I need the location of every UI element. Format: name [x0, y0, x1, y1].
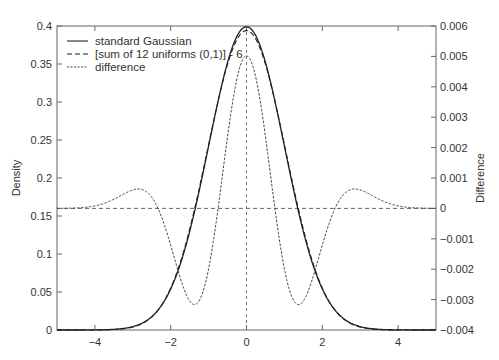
legend: standard Gaussian [sum of 12 uniforms (0…: [67, 35, 243, 73]
y2-tick-label: −0.003: [440, 294, 474, 306]
y2-tick-label: −0.001: [440, 233, 474, 245]
y-tick-label: 0: [46, 324, 52, 336]
legend-item-gaussian: standard Gaussian: [67, 35, 192, 47]
y2-tick-label: 0.002: [440, 142, 468, 154]
legend-label: standard Gaussian: [95, 35, 192, 47]
x-tick-label: 0: [243, 336, 249, 348]
y-tick-label: 0.15: [31, 210, 52, 222]
legend-item-uniform-sum: [sum of 12 uniforms (0,1)] - 6: [67, 48, 243, 60]
y2-tick-label: −0.004: [440, 324, 474, 336]
y2-tick-label: 0.003: [440, 111, 468, 123]
x-tick-label: −4: [89, 336, 102, 348]
y2-tick-label: 0.006: [440, 20, 468, 32]
y2-tick-label: 0.001: [440, 172, 468, 184]
y-axis-right: −0.004−0.003−0.002−0.00100.0010.0020.003…: [431, 20, 474, 336]
y2-tick-label: 0.004: [440, 81, 468, 93]
y-tick-label: 0.1: [37, 248, 52, 260]
y-tick-label: 0.05: [31, 286, 52, 298]
x-tick-label: 2: [319, 336, 325, 348]
x-axis: −4−2024: [89, 26, 402, 348]
y2-tick-label: 0.005: [440, 50, 468, 62]
legend-label: [sum of 12 uniforms (0,1)] - 6: [95, 48, 243, 60]
y-tick-label: 0.25: [31, 134, 52, 146]
y-tick-label: 0.4: [37, 20, 52, 32]
y2-tick-label: −0.002: [440, 263, 474, 275]
y-tick-label: 0.3: [37, 96, 52, 108]
y-tick-label: 0.35: [31, 58, 52, 70]
y-axis-right-title: Difference: [474, 153, 486, 203]
x-tick-label: −2: [164, 336, 177, 348]
x-tick-label: 4: [395, 336, 401, 348]
y2-tick-label: 0: [440, 202, 446, 214]
chart: −4−2024 00.050.10.150.20.250.30.350.4 −0…: [0, 0, 499, 360]
y-tick-label: 0.2: [37, 172, 52, 184]
legend-label: difference: [95, 61, 145, 73]
legend-item-difference: difference: [67, 61, 145, 73]
y-axis-left-title: Density: [10, 159, 22, 196]
